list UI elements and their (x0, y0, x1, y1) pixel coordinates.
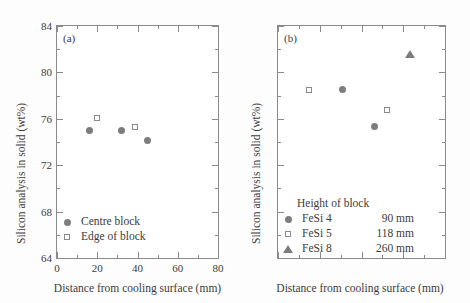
y-tick-minor (215, 96, 218, 97)
x-tick-major (97, 252, 98, 258)
x-tick-minor (117, 255, 118, 258)
x-tick-minor (341, 26, 342, 29)
x-tick-minor (198, 255, 199, 258)
legend-value: 90 mm (362, 213, 414, 225)
x-tick-major (403, 26, 404, 32)
legend-label: FeSi 4 (302, 213, 332, 225)
data-point (86, 127, 93, 134)
y-tick-minor (57, 188, 60, 189)
x-tick-major (278, 252, 279, 258)
x-tick-major (178, 252, 179, 258)
y-tick-label: 84 (22, 21, 52, 32)
x-tick-major (445, 26, 446, 32)
x-tick-major (218, 252, 219, 258)
x-tick-label: 20 (82, 263, 112, 274)
x-tick-label: 0 (42, 263, 72, 274)
x-tick-minor (299, 26, 300, 29)
filled-triangle-marker (283, 245, 293, 253)
y-tick-minor (278, 96, 281, 97)
x-tick-minor (77, 26, 78, 29)
y-tick-minor (278, 49, 281, 50)
x-tick-label: 80 (203, 263, 233, 274)
y-tick-label: 80 (22, 67, 52, 78)
y-tick-major (278, 119, 284, 120)
x-tick-major (178, 26, 179, 32)
x-tick-minor (117, 26, 118, 29)
data-point (144, 137, 151, 144)
y-tick-major (212, 165, 218, 166)
data-point (405, 50, 415, 58)
y-tick-label: 72 (22, 160, 52, 171)
y-axis-title: Silicon analysis in solid (wt%) (251, 103, 263, 244)
x-tick-minor (299, 255, 300, 258)
x-tick-minor (382, 26, 383, 29)
data-point (132, 124, 138, 130)
data-point (306, 87, 312, 93)
y-tick-minor (278, 188, 281, 189)
filled-circle-marker (64, 219, 71, 226)
x-tick-minor (158, 255, 159, 258)
y-tick-minor (442, 49, 445, 50)
x-tick-minor (424, 255, 425, 258)
y-tick-major (212, 212, 218, 213)
y-tick-label: 68 (22, 207, 52, 218)
y-tick-major (57, 119, 63, 120)
y-tick-minor (442, 188, 445, 189)
x-tick-minor (424, 26, 425, 29)
x-tick-major (445, 252, 446, 258)
y-tick-minor (215, 235, 218, 236)
x-tick-major (218, 26, 219, 32)
x-tick-minor (77, 255, 78, 258)
legend-label: Edge of block (81, 231, 146, 243)
data-point (118, 127, 125, 134)
panel-tag-a: (a) (63, 33, 75, 44)
y-tick-major (439, 72, 445, 73)
x-tick-major (278, 26, 279, 32)
legend-label: Centre block (81, 216, 140, 228)
x-tick-major (362, 26, 363, 32)
y-tick-minor (57, 49, 60, 50)
x-tick-major (138, 252, 139, 258)
figure-container: Silicon analysis in solid (wt%) (a) Cent… (0, 0, 470, 303)
y-tick-major (439, 119, 445, 120)
y-tick-major (212, 119, 218, 120)
legend-label: FeSi 5 (302, 228, 332, 240)
y-tick-major (439, 258, 445, 259)
y-tick-minor (278, 235, 281, 236)
y-tick-major (212, 72, 218, 73)
x-tick-label: 60 (163, 263, 193, 274)
x-tick-minor (198, 26, 199, 29)
y-tick-minor (57, 235, 60, 236)
y-tick-minor (57, 142, 60, 143)
x-tick-minor (158, 26, 159, 29)
x-tick-minor (382, 255, 383, 258)
data-point (384, 107, 390, 113)
y-tick-major (278, 165, 284, 166)
x-tick-major (97, 26, 98, 32)
x-axis-title: Distance from cooling surface (mm) (40, 283, 235, 295)
legend-value: 118 mm (362, 228, 414, 240)
y-tick-major (212, 258, 218, 259)
x-tick-major (57, 252, 58, 258)
panel-a: Silicon analysis in solid (wt%) (a) Cent… (0, 0, 235, 303)
y-tick-major (57, 258, 63, 259)
y-tick-minor (215, 49, 218, 50)
panel-tag-b: (b) (284, 33, 297, 44)
y-tick-major (278, 72, 284, 73)
x-tick-minor (341, 255, 342, 258)
y-tick-major (439, 212, 445, 213)
x-axis-title: Distance from cooling surface (mm) (260, 283, 460, 295)
y-tick-major (439, 165, 445, 166)
x-tick-label: 40 (123, 263, 153, 274)
x-tick-major (320, 26, 321, 32)
y-tick-label: 76 (22, 114, 52, 125)
y-tick-major (57, 165, 63, 166)
y-tick-minor (57, 96, 60, 97)
data-point (371, 123, 378, 130)
y-tick-minor (215, 142, 218, 143)
y-tick-major (278, 258, 284, 259)
y-tick-minor (215, 188, 218, 189)
open-square-marker (64, 234, 70, 240)
legend-label: FeSi 8 (302, 243, 332, 255)
filled-circle-marker (285, 216, 292, 223)
